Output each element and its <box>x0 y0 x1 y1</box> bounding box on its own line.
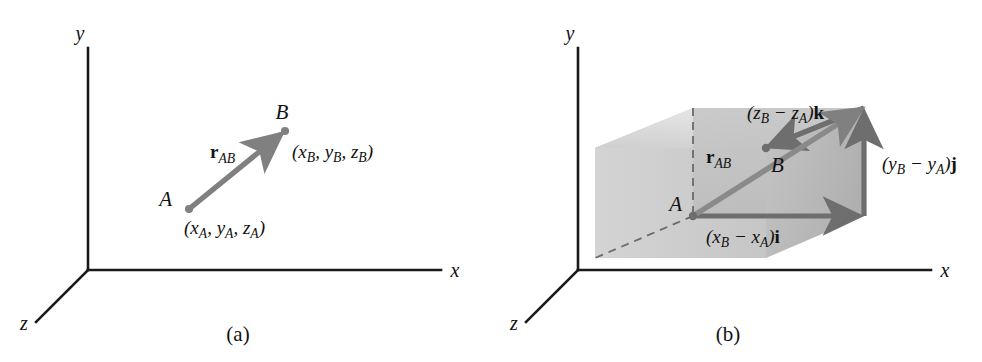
panel-b: y x z <box>509 22 957 346</box>
point-b-label: B <box>276 100 289 124</box>
coord-y-var: y <box>323 141 334 162</box>
subtrahend-var: y <box>925 153 936 174</box>
coord-sep-2: , <box>233 217 243 238</box>
minus-operator: − <box>905 153 927 174</box>
vector-y-component-label: (yB − yA)j <box>882 153 957 177</box>
point-a-label: A <box>157 187 172 211</box>
z-axis-line <box>526 270 578 322</box>
paren-close: ) <box>767 226 774 248</box>
paren-close: ) <box>806 102 813 124</box>
panel-b-caption: (b) <box>716 322 741 346</box>
point-a-label: A <box>667 192 682 216</box>
unit-vector-k: k <box>814 102 825 123</box>
paren-close: ) <box>258 217 265 239</box>
point-a-dot <box>689 212 697 220</box>
point-a-dot <box>185 205 193 213</box>
unit-vector-i: i <box>775 226 780 247</box>
point-b-dot <box>281 127 289 135</box>
position-vector-figure: y x z A (xA, yA, zA) B (xB, yB, zB) <box>0 0 982 362</box>
x-axis-label: x <box>940 259 950 281</box>
point-b-dot <box>762 144 770 152</box>
vector-x-component-label: (xB − xA)i <box>706 226 780 250</box>
paren-close: ) <box>366 141 373 163</box>
minuend-var: y <box>886 153 897 174</box>
vector-subscript: AB <box>217 151 235 166</box>
y-axis-label: y <box>74 22 85 45</box>
y-axis-label: y <box>564 22 575 45</box>
point-a-coordinates: (xA, yA, zA) <box>184 217 265 241</box>
minus-operator: − <box>769 102 791 123</box>
panel-a-caption: (a) <box>226 322 249 346</box>
r-ab-arrow <box>189 135 280 209</box>
panel-a: y x z A (xA, yA, zA) B (xB, yB, zB) <box>19 22 459 346</box>
vector-z-component-label: (zB − zA)k <box>747 102 825 126</box>
z-axis-label: z <box>19 312 28 334</box>
z-axis-line <box>36 270 88 322</box>
point-b-label: B <box>771 153 784 177</box>
panel-a-axes: y x z <box>19 22 459 334</box>
figure-container: y x z A (xA, yA, zA) B (xB, yB, zB) <box>0 0 982 362</box>
x-axis-label: x <box>450 259 460 281</box>
coord-sep-1: , <box>315 141 325 162</box>
paren-close: ) <box>943 153 950 175</box>
coord-sep-2: , <box>341 141 351 162</box>
unit-vector-j: j <box>950 153 957 174</box>
minus-operator: − <box>729 226 751 247</box>
panel-a-vector-r-ab <box>185 127 289 213</box>
vector-subscript: AB <box>713 156 731 171</box>
coord-y-var: y <box>215 217 226 238</box>
z-axis-label: z <box>509 312 518 334</box>
point-b-coordinates: (xB, yB, zB) <box>292 141 373 165</box>
coord-sep-1: , <box>207 217 217 238</box>
vector-r-ab-label: rAB <box>210 141 236 166</box>
